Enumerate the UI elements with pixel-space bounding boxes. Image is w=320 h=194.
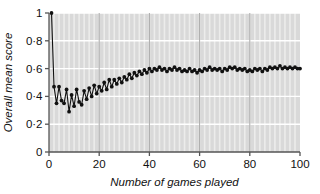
y-tick-label: 0·2 (26, 118, 43, 130)
data-point (72, 104, 76, 108)
data-point (62, 101, 66, 105)
data-point (97, 85, 101, 89)
x-axis-tick-labels: 020406080100 (46, 158, 310, 170)
data-point (100, 89, 104, 93)
data-point (107, 78, 111, 82)
data-point (120, 81, 124, 85)
x-tick-label: 60 (193, 158, 206, 170)
data-point (92, 83, 96, 87)
data-point (55, 101, 59, 105)
data-point (130, 76, 134, 80)
data-point (105, 88, 109, 92)
data-point (52, 85, 56, 89)
data-point (90, 95, 94, 99)
data-point (102, 81, 106, 85)
chart-figure: 00·20·40·60·81 020406080100 Number of ga… (0, 0, 320, 194)
data-point (145, 71, 149, 75)
x-tick-label: 100 (290, 158, 309, 170)
data-point (82, 89, 86, 93)
data-point (95, 92, 99, 96)
data-point (65, 88, 69, 92)
y-tick-label: 0·8 (26, 35, 43, 47)
y-tick-label: 1 (36, 7, 42, 19)
data-point (298, 67, 302, 71)
data-point (85, 97, 89, 101)
data-point (80, 103, 84, 107)
data-point (70, 93, 74, 97)
data-point (127, 72, 131, 76)
x-tick-label: 40 (143, 158, 156, 170)
data-point (135, 74, 139, 78)
data-point (112, 78, 116, 82)
data-point (50, 11, 54, 15)
x-tick-label: 0 (46, 158, 52, 170)
y-tick-label: 0·4 (26, 90, 43, 102)
data-point (110, 85, 114, 89)
x-axis-title: Number of games played (110, 176, 239, 188)
data-point (87, 86, 91, 90)
y-axis-title: Overall mean score (2, 33, 14, 133)
data-point (125, 78, 129, 82)
data-point (57, 85, 61, 89)
y-axis-tick-labels: 00·20·40·60·81 (26, 7, 43, 158)
y-tick-label: 0 (36, 146, 42, 158)
data-point (115, 82, 119, 86)
data-point (75, 88, 79, 92)
data-point (117, 76, 121, 80)
x-tick-label: 20 (93, 158, 106, 170)
x-tick-label: 80 (243, 158, 256, 170)
data-point (140, 72, 144, 76)
y-tick-label: 0·6 (26, 63, 43, 75)
data-point (67, 110, 71, 114)
chart-svg: 00·20·40·60·81 020406080100 Number of ga… (0, 0, 320, 194)
